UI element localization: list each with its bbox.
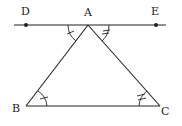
angle-eac-tick-2 xyxy=(102,33,109,34)
label-b: B xyxy=(12,102,20,115)
segment-ab xyxy=(26,25,88,106)
label-d: D xyxy=(21,5,30,18)
point-d xyxy=(24,23,28,27)
label-e: E xyxy=(151,5,159,18)
angle-acb-tick-2 xyxy=(138,98,146,100)
label-a: A xyxy=(83,6,93,19)
point-e xyxy=(154,23,158,27)
geometry-diagram: D A E B C xyxy=(0,0,182,126)
label-c: C xyxy=(161,105,169,118)
angle-acb-tick-1 xyxy=(137,94,145,96)
angle-eac-tick-1 xyxy=(103,30,110,31)
segment-ac xyxy=(88,25,160,106)
angle-dab-tick xyxy=(67,31,74,34)
